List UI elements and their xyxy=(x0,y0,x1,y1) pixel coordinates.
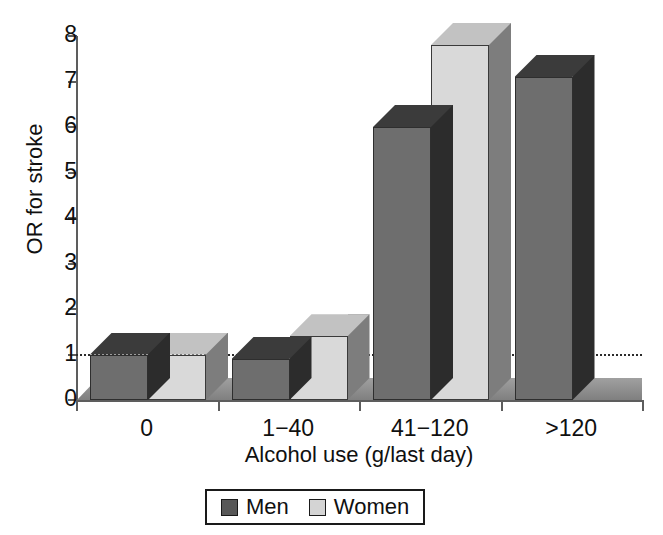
y-tick-label: 5 xyxy=(43,160,77,183)
bar-men-41-120 xyxy=(373,105,431,400)
y-tick-label: 7 xyxy=(43,69,77,92)
y-tick-label: 1 xyxy=(43,342,77,365)
legend-entry-men: Men xyxy=(221,496,289,518)
women-swatch-icon xyxy=(309,499,326,516)
x-tick xyxy=(76,400,78,411)
y-axis-title: OR for stroke xyxy=(24,89,46,289)
bar-chart: 012345678 OR for stroke 01−4041−120>120 … xyxy=(0,0,663,535)
bar-side-face xyxy=(573,55,595,400)
bar-men-1-40 xyxy=(232,337,290,400)
y-tick-label: 8 xyxy=(43,23,77,46)
x-tick xyxy=(501,400,503,411)
bar-front-face xyxy=(90,355,148,401)
bar-front-face xyxy=(515,77,573,400)
x-tick xyxy=(218,400,220,411)
bar-front-face xyxy=(232,359,290,400)
chart-legend: Men Women xyxy=(205,489,425,525)
men-swatch-icon xyxy=(221,499,238,516)
y-tick-label: 2 xyxy=(43,296,77,319)
x-tick-label: >120 xyxy=(501,414,643,442)
bar-side-face xyxy=(431,105,453,400)
legend-label-men: Men xyxy=(246,496,289,518)
bar-side-face xyxy=(489,23,511,400)
x-tick xyxy=(359,400,361,411)
y-tick-label: 4 xyxy=(43,205,77,228)
y-tick-label: 0 xyxy=(43,387,77,410)
x-axis-title: Alcohol use (g/last day) xyxy=(76,443,642,467)
x-tick xyxy=(642,400,644,411)
legend-entry-women: Women xyxy=(309,496,409,518)
bar-men--120 xyxy=(515,55,573,400)
y-tick-label: 6 xyxy=(43,114,77,137)
y-tick-label: 3 xyxy=(43,251,77,274)
bar-men-0 xyxy=(90,333,148,401)
bar-front-face xyxy=(373,127,431,400)
x-tick-label: 1−40 xyxy=(218,414,360,442)
x-tick-label: 41−120 xyxy=(359,414,501,442)
x-tick-label: 0 xyxy=(76,414,218,442)
legend-label-women: Women xyxy=(334,496,409,518)
